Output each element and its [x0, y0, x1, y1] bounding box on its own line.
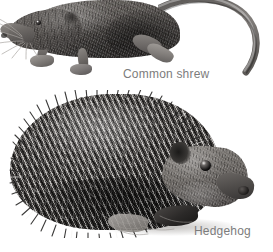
shrew-eye — [36, 20, 41, 25]
shrew-mid-foot — [70, 64, 92, 75]
hedgehog-nose — [238, 186, 249, 195]
caption-hedgehog: Hedgehog — [194, 225, 251, 237]
hedgehog-eye — [200, 160, 211, 171]
shrew-fore-foot — [30, 55, 54, 67]
shrew-nose — [1, 33, 7, 38]
caption-common-shrew: Common shrew — [123, 68, 209, 80]
hedgehog-crown-highlight — [48, 102, 166, 159]
illustration-plate: Common shrew — [0, 0, 273, 252]
shrew-ear — [64, 11, 80, 25]
